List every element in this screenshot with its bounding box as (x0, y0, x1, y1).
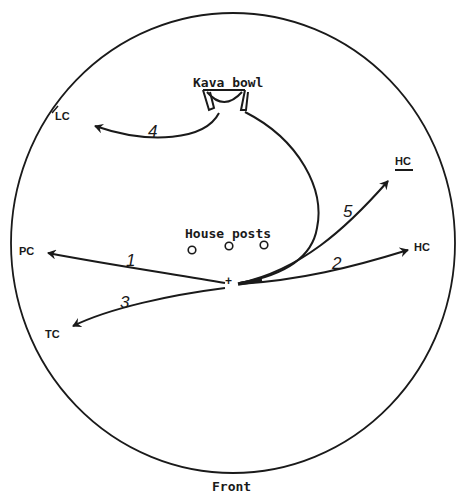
arrow-2 (240, 250, 408, 284)
lc-label: LC (55, 111, 70, 122)
center-marker: + (225, 275, 232, 287)
hc-upper-label: HC (395, 156, 411, 167)
front-label: Front (212, 480, 251, 493)
arrow-3-number: 3 (120, 294, 129, 311)
arrow-1-number: 1 (126, 252, 135, 269)
arrow-5-number: 5 (343, 203, 352, 220)
arrow-1 (48, 253, 225, 283)
house-post-icon (225, 242, 233, 250)
hc-right-label: HC (414, 242, 430, 253)
arrow-3 (73, 288, 225, 326)
arrow-2-number: 2 (332, 255, 341, 272)
arrow-4-number: 4 (148, 123, 157, 140)
house-post-icon (260, 241, 268, 249)
kava-bowl-to-center-line (240, 112, 318, 283)
tc-label: TC (45, 329, 60, 340)
kava-bowl-label: Kava bowl (193, 76, 263, 89)
house-post-icon (188, 246, 196, 254)
house-posts-label: House posts (185, 227, 271, 240)
diagram-canvas: Kava bowl House posts Front + LC PC TC H… (0, 0, 460, 501)
pc-label: PC (19, 246, 34, 257)
kava-bowl-icon (203, 90, 248, 110)
